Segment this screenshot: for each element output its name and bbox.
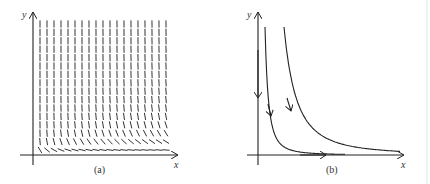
slope-segment (85, 149, 92, 150)
slope-segment (144, 121, 146, 128)
slope-segment (148, 150, 155, 151)
slope-segment (145, 104, 146, 111)
slope-segment (60, 138, 62, 145)
slope-segment (117, 113, 118, 120)
slope-segment (138, 96, 139, 103)
slope-segment (109, 121, 110, 128)
slope-segment (75, 121, 76, 128)
slope-segment (68, 121, 69, 128)
slope-segment (116, 130, 119, 137)
y-axis-label-b: y (246, 9, 252, 20)
slope-segment (72, 149, 79, 151)
slope-segment (113, 150, 120, 151)
panel-b: y x (b) (246, 9, 406, 176)
slope-segment (158, 113, 159, 120)
slope-segment (96, 113, 97, 120)
slope-segment (58, 149, 65, 152)
slope-segment (166, 104, 167, 111)
slope-segment (158, 121, 160, 128)
slope-segment (165, 113, 166, 120)
slope-segment (150, 130, 153, 136)
caption-a: (a) (94, 164, 105, 176)
slope-segment (89, 121, 90, 128)
slope-segment (117, 104, 118, 111)
slope-segment (106, 149, 113, 150)
slope-segment (135, 139, 141, 143)
slope-segment (163, 140, 169, 144)
slope-segment (102, 130, 104, 137)
slope-segment (155, 150, 162, 151)
slope-segment (102, 121, 103, 128)
slope-segment (81, 130, 83, 137)
caption-b: (b) (326, 164, 338, 176)
slope-segment (121, 139, 126, 144)
slope-segment (157, 130, 161, 136)
slope-segment (145, 96, 146, 103)
slope-segment (124, 104, 125, 111)
slope-segment (110, 104, 111, 111)
slope-segment (74, 130, 75, 137)
slope-segment (124, 113, 125, 120)
slope-segment (136, 130, 139, 136)
slope-segment (141, 150, 148, 151)
slope-segment (131, 96, 132, 103)
slope-segment (151, 113, 152, 120)
slope-segment (137, 113, 138, 120)
x-axis-label-a: x (173, 159, 179, 170)
slope-segment (143, 130, 146, 136)
slope-segment (65, 149, 72, 151)
slope-segment (101, 139, 106, 144)
slope-segment (152, 96, 153, 103)
slope-segment (151, 121, 153, 128)
slope-segment (103, 104, 104, 111)
slope-segment (38, 147, 42, 153)
slope-segment (131, 104, 132, 111)
slope-segment (120, 150, 127, 151)
slope-segment (103, 113, 104, 120)
slope-segment (127, 150, 134, 151)
trajectory-curve-2 (284, 27, 400, 151)
slope-segment (109, 130, 111, 137)
slope-segment (159, 104, 160, 111)
slope-segment (94, 139, 98, 145)
slope-segment (134, 150, 141, 151)
slope-segment (53, 138, 55, 145)
slope-segment (156, 140, 162, 144)
slope-segment (80, 139, 84, 145)
slope-segment (130, 113, 131, 120)
slope-segment (67, 130, 68, 137)
slope-segment (128, 139, 134, 144)
slope-segment (159, 96, 160, 103)
y-axis-label-a: y (21, 9, 27, 20)
slope-segment (123, 130, 126, 137)
slope-segment (166, 96, 167, 103)
slope-segment (164, 130, 168, 136)
slope-segment (144, 113, 145, 120)
slope-segment (108, 139, 113, 144)
slope-segment (82, 113, 83, 120)
slope-segment (51, 148, 57, 151)
panel-a: y x (a) (20, 9, 179, 176)
slope-segment (110, 113, 111, 120)
slope-segment (40, 138, 41, 145)
slope-segment (44, 148, 50, 153)
slope-segment (138, 104, 139, 111)
trajectory-2-arrow (287, 98, 291, 111)
slope-segment (92, 149, 99, 150)
slope-segment (166, 88, 167, 95)
slope-segment (114, 139, 119, 144)
slope-segment (95, 121, 96, 128)
slope-segment (61, 130, 62, 137)
x-axis-label-b: x (400, 159, 406, 170)
slope-segment (82, 121, 83, 128)
slope-segment (73, 138, 76, 144)
slope-segment (123, 121, 125, 128)
slope-segment (162, 150, 169, 151)
slope-segment (78, 149, 85, 151)
slope-segment (116, 121, 117, 128)
slope-segment (149, 140, 155, 144)
slope-segment (137, 121, 139, 128)
slope-segment (99, 149, 106, 150)
slope-segment (152, 104, 153, 111)
slope-segment (89, 113, 90, 120)
